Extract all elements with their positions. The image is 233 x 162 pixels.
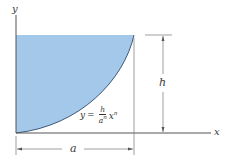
denominator-exponent: n — [103, 114, 107, 120]
diagram-canvas — [0, 0, 233, 162]
a-dimension-label: a — [70, 143, 77, 154]
curve-equation: y = h an xn — [80, 106, 117, 124]
equation-denominator: an — [99, 115, 107, 125]
x-axis-label: x — [214, 127, 220, 137]
equation-fraction: h an — [99, 106, 107, 124]
equation-variable: xn — [109, 110, 118, 121]
equation-lhs: y — [80, 110, 85, 120]
h-dimension-label: h — [159, 77, 166, 88]
a-arrow-left-icon — [17, 148, 22, 151]
a-arrow-right-icon — [128, 148, 133, 151]
equation-equals: = — [87, 110, 95, 120]
y-axis-label: y — [12, 4, 18, 14]
h-arrow-down-icon — [162, 127, 165, 132]
variable-exponent: n — [114, 110, 118, 116]
h-arrow-up-icon — [162, 36, 165, 41]
